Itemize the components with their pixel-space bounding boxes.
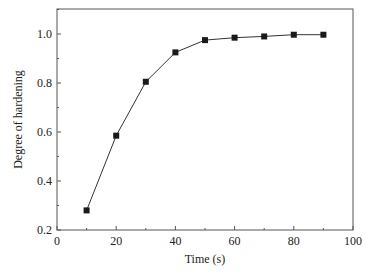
x-tick-label: 20 xyxy=(110,234,122,248)
x-tick-label: 40 xyxy=(169,234,181,248)
x-tick-label: 0 xyxy=(54,234,60,248)
y-axis-title: Degree of hardening xyxy=(11,70,25,169)
x-tick-label: 60 xyxy=(229,234,241,248)
data-point xyxy=(113,133,119,139)
y-tick-label: 0.4 xyxy=(37,174,52,188)
data-point xyxy=(291,32,297,38)
data-point xyxy=(320,32,326,38)
chart: 020406080100 0.20.40.60.81.0 Time (s) De… xyxy=(0,0,379,277)
data-point xyxy=(143,79,149,85)
x-axis-title: Time (s) xyxy=(185,252,226,266)
x-tick-label: 80 xyxy=(288,234,300,248)
data-point xyxy=(84,207,90,213)
series-group xyxy=(84,32,327,214)
y-tick-label: 0.6 xyxy=(37,125,52,139)
series-line xyxy=(87,35,324,211)
data-point xyxy=(261,33,267,39)
y-tick-label: 0.2 xyxy=(37,223,52,237)
x-axis: 020406080100 xyxy=(54,226,362,248)
data-point xyxy=(232,35,238,41)
data-point xyxy=(172,49,178,55)
x-tick-label: 100 xyxy=(344,234,362,248)
data-point xyxy=(202,37,208,43)
y-tick-label: 1.0 xyxy=(37,27,52,41)
y-tick-label: 0.8 xyxy=(37,76,52,90)
